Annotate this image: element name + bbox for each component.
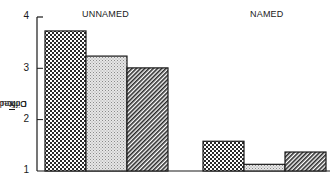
y-axis bbox=[37, 17, 43, 171]
ylabel-text-2: Correct bbox=[0, 99, 27, 109]
y-tick-4: 4 bbox=[17, 10, 29, 21]
bar-named-1 bbox=[203, 141, 244, 171]
bar-named-2 bbox=[244, 164, 285, 171]
y-tick-1: 1 bbox=[17, 164, 29, 175]
bar-unnamed-3 bbox=[127, 68, 168, 171]
bar-unnamed-2 bbox=[86, 56, 127, 171]
bars bbox=[45, 31, 326, 171]
bar-named-3 bbox=[285, 152, 326, 171]
bar-chart bbox=[0, 0, 334, 185]
group-label-unnamed: UNNAMED bbox=[82, 9, 129, 19]
y-axis-label: Difficult X Correct bbox=[2, 64, 22, 144]
group-label-named: NAMED bbox=[250, 9, 284, 19]
bar-unnamed-1 bbox=[45, 31, 86, 171]
